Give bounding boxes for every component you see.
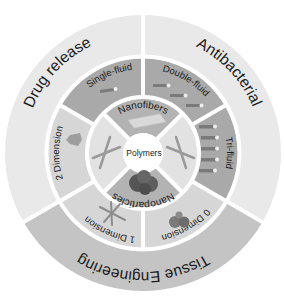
polymer-nanomaterials-wheel-diagram: Polymers Drug release Antibacterial Tiss…	[0, 0, 284, 304]
svg-text:Tri-fluid: Tri-fluid	[224, 136, 236, 170]
middle-label-tri-fluid: Tri-fluid	[224, 136, 236, 170]
center-label: Polymers	[126, 148, 161, 158]
